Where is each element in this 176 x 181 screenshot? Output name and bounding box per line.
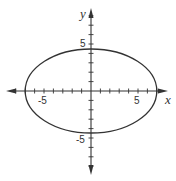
y-tick-label-neg5: -5 <box>76 134 85 145</box>
y-tick-label-5: 5 <box>80 38 86 49</box>
ellipse-graph: x y -5 5 5 -5 <box>0 0 176 181</box>
y-axis-label: y <box>78 6 86 21</box>
x-tick-label-neg5: -5 <box>38 95 47 106</box>
x-axis-left-arrow-icon <box>6 89 16 94</box>
y-axis-up-arrow-icon <box>89 8 94 18</box>
x-axis-label: x <box>164 92 171 107</box>
x-tick-label-5: 5 <box>134 95 140 106</box>
y-axis-down-arrow-icon <box>89 165 94 175</box>
